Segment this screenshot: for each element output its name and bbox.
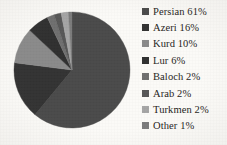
legend-label-azeri: Azeri 16%	[153, 22, 199, 33]
legend-swatch-baloch	[142, 73, 149, 80]
legend-label-turkmen: Turkmen 2%	[153, 104, 209, 115]
legend-swatch-azeri	[142, 24, 149, 31]
legend-swatch-other	[142, 122, 149, 129]
legend-swatch-persian	[142, 8, 149, 15]
legend-swatch-arab	[142, 90, 149, 97]
legend-item-arab[interactable]: Arab 2%	[142, 85, 227, 101]
legend-swatch-turkmen	[142, 106, 149, 113]
pie-chart-figure: Persian 61% Azeri 16% Kurd 10% Lur 6% Ba…	[0, 0, 227, 145]
legend-label-baloch: Baloch 2%	[153, 71, 200, 82]
legend-swatch-kurd	[142, 40, 149, 47]
legend-item-azeri[interactable]: Azeri 16%	[142, 19, 227, 35]
chart-legend: Persian 61% Azeri 16% Kurd 10% Lur 6% Ba…	[142, 3, 227, 143]
legend-item-persian[interactable]: Persian 61%	[142, 3, 227, 19]
legend-item-other[interactable]: Other 1%	[142, 118, 227, 134]
legend-label-other: Other 1%	[153, 120, 194, 131]
legend-label-arab: Arab 2%	[153, 88, 191, 99]
legend-label-persian: Persian 61%	[153, 6, 207, 17]
pie-slice-group	[14, 12, 130, 128]
legend-label-kurd: Kurd 10%	[153, 38, 197, 49]
pie-chart-plot-area	[11, 4, 135, 139]
legend-item-kurd[interactable]: Kurd 10%	[142, 36, 227, 52]
pie-chart-svg	[11, 4, 135, 139]
legend-item-lur[interactable]: Lur 6%	[142, 52, 227, 68]
legend-item-baloch[interactable]: Baloch 2%	[142, 69, 227, 85]
legend-label-lur: Lur 6%	[153, 55, 185, 66]
legend-item-turkmen[interactable]: Turkmen 2%	[142, 101, 227, 117]
legend-swatch-lur	[142, 57, 149, 64]
